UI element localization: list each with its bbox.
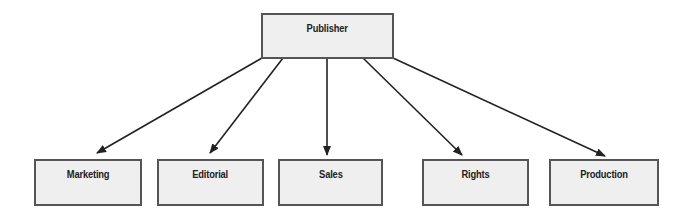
node-production: Production xyxy=(549,159,659,206)
node-rights: Rights xyxy=(422,159,529,206)
node-label: Editorial xyxy=(193,168,229,180)
node-sales: Sales xyxy=(278,159,383,206)
node-label: Marketing xyxy=(67,168,110,180)
arrow-publisher-production xyxy=(393,58,605,156)
arrow-publisher-editorial xyxy=(210,58,283,153)
node-label: Publisher xyxy=(307,22,348,34)
node-publisher: Publisher xyxy=(261,13,394,59)
node-label: Sales xyxy=(319,168,343,180)
node-label: Production xyxy=(580,168,628,180)
arrow-publisher-marketing xyxy=(97,58,262,153)
node-editorial: Editorial xyxy=(157,159,264,206)
arrow-publisher-rights xyxy=(363,58,462,155)
node-label: Rights xyxy=(461,168,489,180)
node-marketing: Marketing xyxy=(34,159,142,206)
